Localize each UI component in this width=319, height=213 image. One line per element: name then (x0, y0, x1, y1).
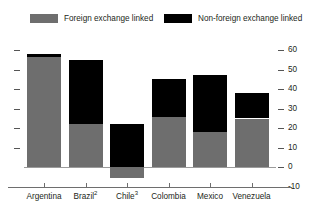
x-axis-tick (252, 183, 253, 187)
bar-chart: Foreign exchange linked Non-foreign exch… (0, 0, 319, 213)
bar-group[interactable] (193, 0, 227, 213)
bar-segment-non-foreign-exchange-linked[interactable] (27, 54, 61, 57)
x-axis-tick (210, 183, 211, 187)
bar-segment-foreign-exchange-linked[interactable] (193, 132, 227, 167)
x-axis-tick (169, 183, 170, 187)
bar-segment-non-foreign-exchange-linked[interactable] (69, 60, 103, 125)
chart-plot-area (0, 0, 319, 213)
bar-segment-foreign-exchange-linked[interactable] (69, 124, 103, 167)
bar-group[interactable] (27, 0, 61, 213)
x-axis-tick (86, 183, 87, 187)
bar-group[interactable] (152, 0, 186, 213)
bar-segment-foreign-exchange-linked[interactable] (110, 167, 144, 178)
bar-segment-foreign-exchange-linked[interactable] (152, 117, 186, 168)
x-axis-label-venezuela: Venezuela (222, 192, 282, 201)
bar-segment-foreign-exchange-linked[interactable] (27, 57, 61, 168)
footnote-marker: 3 (135, 190, 138, 196)
bar-segment-non-foreign-exchange-linked[interactable] (152, 79, 186, 116)
bar-group[interactable] (69, 0, 103, 213)
bar-segment-non-foreign-exchange-linked[interactable] (193, 75, 227, 132)
bar-group[interactable] (235, 0, 269, 213)
x-axis-tick (44, 183, 45, 187)
bar-segment-non-foreign-exchange-linked[interactable] (110, 124, 144, 167)
bar-segment-non-foreign-exchange-linked[interactable] (235, 93, 269, 118)
bar-segment-foreign-exchange-linked[interactable] (235, 119, 269, 168)
x-axis-tick (127, 183, 128, 187)
bar-group[interactable] (110, 0, 144, 213)
